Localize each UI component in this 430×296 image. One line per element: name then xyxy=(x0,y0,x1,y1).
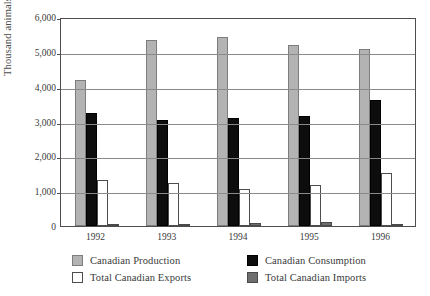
bar-consumption-1996 xyxy=(370,100,381,226)
legend-swatch-exports-icon xyxy=(72,272,83,283)
bar-group xyxy=(217,19,261,226)
x-axis-tick-label: 1995 xyxy=(300,232,319,242)
x-axis-tick-label: 1996 xyxy=(371,232,390,242)
bar-consumption-1995 xyxy=(299,116,310,226)
bar-groups xyxy=(61,19,415,226)
bar-imports-1995 xyxy=(321,222,332,226)
y-axis-tick-mark xyxy=(57,124,61,125)
bar-exports-1992 xyxy=(97,180,108,226)
y-axis-tick-mark xyxy=(57,19,61,20)
y-axis-tick-mark xyxy=(57,54,61,55)
y-axis-tick-label: 1,000 xyxy=(14,187,56,197)
legend-swatch-production-icon xyxy=(72,255,83,266)
bar-group xyxy=(146,19,190,226)
plot-area xyxy=(60,18,416,227)
y-axis-tick-label: 2,000 xyxy=(14,152,56,162)
legend-label: Total Canadian Imports xyxy=(265,272,366,283)
bar-exports-1995 xyxy=(310,185,321,226)
bar-chart-figure: Thousand animals 01,0002,0003,0004,0005,… xyxy=(0,0,430,296)
y-axis-tick-label: 3,000 xyxy=(14,118,56,128)
y-axis-tick-label: 0 xyxy=(14,222,56,232)
bar-production-1995 xyxy=(288,45,299,226)
bar-exports-1996 xyxy=(381,173,392,226)
bar-production-1994 xyxy=(217,37,228,226)
y-axis-tick-label: 5,000 xyxy=(14,48,56,58)
bar-production-1996 xyxy=(359,49,370,226)
y-axis-tick-labels: 01,0002,0003,0004,0005,0006,000 xyxy=(14,0,56,296)
bar-consumption-1992 xyxy=(86,113,97,226)
bar-imports-1993 xyxy=(179,224,190,226)
bar-imports-1992 xyxy=(108,224,119,226)
legend-item-consumption: Canadian Consumption xyxy=(247,255,420,266)
gridline xyxy=(61,89,415,90)
x-axis-tick-label: 1994 xyxy=(229,232,248,242)
y-axis-tick-mark xyxy=(57,158,61,159)
legend-swatch-consumption-icon xyxy=(247,255,258,266)
bar-group xyxy=(288,19,332,226)
legend-label: Total Canadian Exports xyxy=(90,272,191,283)
y-axis-tick-label: 6,000 xyxy=(14,13,56,23)
legend-item-production: Canadian Production xyxy=(72,255,247,266)
bar-production-1992 xyxy=(75,80,86,226)
gridline xyxy=(61,193,415,194)
x-axis-tick-label: 1993 xyxy=(157,232,176,242)
legend-label: Canadian Consumption xyxy=(265,255,366,266)
bar-group xyxy=(359,19,403,226)
legend-swatch-imports-icon xyxy=(247,272,258,283)
x-axis-tick-labels: 19921993199419951996 xyxy=(60,232,416,248)
gridline xyxy=(61,158,415,159)
legend-item-exports: Total Canadian Exports xyxy=(72,272,247,283)
chart-legend: Canadian ProductionCanadian ConsumptionT… xyxy=(72,252,420,286)
gridline xyxy=(61,54,415,55)
legend-item-imports: Total Canadian Imports xyxy=(247,272,420,283)
bar-exports-1993 xyxy=(168,183,179,226)
bar-production-1993 xyxy=(146,40,157,226)
bar-consumption-1993 xyxy=(157,120,168,226)
y-axis-tick-label: 4,000 xyxy=(14,83,56,93)
legend-label: Canadian Production xyxy=(90,255,180,266)
bar-imports-1996 xyxy=(392,224,403,226)
bar-group xyxy=(75,19,119,226)
y-axis-tick-mark xyxy=(57,193,61,194)
bar-consumption-1994 xyxy=(228,118,239,226)
x-axis-tick-label: 1992 xyxy=(86,232,105,242)
bar-exports-1994 xyxy=(239,189,250,226)
gridline xyxy=(61,124,415,125)
bar-imports-1994 xyxy=(250,223,261,226)
y-axis-tick-mark xyxy=(57,89,61,90)
